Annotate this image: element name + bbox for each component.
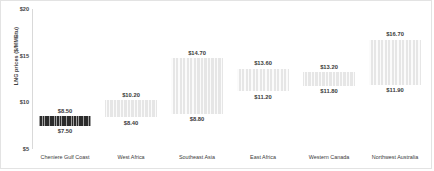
low-value-label: $8.40: [124, 120, 139, 126]
high-value-label: $10.20: [122, 92, 140, 98]
y-tick-label: $10: [5, 99, 29, 105]
high-value-label: $14.70: [188, 50, 206, 56]
bar-2: [105, 100, 156, 117]
high-value-label: $16.70: [386, 31, 404, 37]
high-value-label: $8.50: [58, 108, 73, 114]
low-value-label: $8.80: [190, 116, 205, 122]
y-axis-tick-labels: $5$10$15$20: [1, 9, 29, 149]
y-tick-label: $15: [5, 53, 29, 59]
bar-5: [303, 72, 354, 85]
low-value-label: $11.80: [320, 88, 337, 94]
bar-1: [39, 116, 90, 125]
bar-6: [369, 40, 420, 85]
high-value-label: $13.20: [320, 64, 338, 70]
y-tick-label: $20: [5, 6, 29, 12]
bar-4: [237, 69, 288, 91]
x-category-label: Northwest Australia: [372, 154, 418, 160]
bar-3: [171, 58, 222, 113]
x-category-label: Western Canada: [309, 154, 349, 160]
high-value-label: $13.60: [254, 60, 272, 66]
low-value-label: $7.50: [58, 128, 73, 134]
lng-price-range-chart: LNG prices ($/MMBtu) $5$10$15$20 $8.50$7…: [0, 0, 432, 169]
x-category-label: Southeast Asia: [179, 154, 215, 160]
low-value-label: $11.90: [386, 87, 403, 93]
low-value-label: $11.20: [254, 94, 271, 100]
plot-area: $8.50$7.50$10.20$8.40$14.70$8.80$13.60$1…: [32, 9, 428, 149]
y-tick-label: $5: [5, 146, 29, 152]
x-category-label: East Africa: [250, 154, 276, 160]
x-category-label: Cheniere Gulf Coast: [41, 154, 90, 160]
x-category-label: West Africa: [117, 154, 144, 160]
